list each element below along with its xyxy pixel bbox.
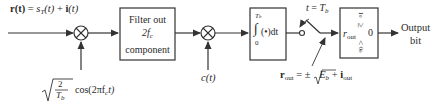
carrier-tail: t) [108,84,114,95]
carrier-fraction-num: 2 [58,80,63,89]
rout-eq: = ± [296,69,310,80]
carrier-cos-text: cos(2πf [75,84,105,95]
input-s-arg: (t) [44,3,54,14]
integrator-upper-limit: Tb [255,13,261,20]
input-r: r(t) [10,3,25,14]
integrator-integrand: (•)dt [261,28,278,38]
diagram-canvas [0,0,436,108]
filter-line2: 2fc [120,26,175,43]
filter-2f: 2f [142,27,150,38]
int-upper-sub: b [259,14,262,19]
filter-line3: component [120,43,175,56]
carrier-den-sub: b [61,94,65,102]
carrier-fraction-den: Tb [56,91,65,102]
decision-top-symbol: 10 [357,12,364,18]
sample-time-label: t = Tb [306,3,328,15]
sample-t: t [306,2,309,13]
integral-sign: ∫ [254,22,258,36]
carrier-cos-label: cos(2πfct) [75,85,114,97]
rout-E-sub: b [326,74,330,82]
rout-plus: + [332,69,338,80]
decision-r-sub: out [347,33,356,41]
mixer2-icon [201,26,215,40]
input-plus: + [57,3,63,14]
decision-bottom-symbol: 00 [357,47,364,53]
rout-i-sub: out [343,74,352,82]
output-label: Output bit [401,21,430,47]
decision-bottom-sub: 0 [358,50,363,53]
output-line2: bit [401,34,430,47]
output-line1: Output [401,21,430,34]
spreading-code-label: c(t) [201,73,216,84]
decision-ge: ≥ [356,23,365,28]
rout-pointer-arrow [312,38,325,66]
filter-fc-sub: c [150,32,153,40]
mixer1-icon [74,26,88,40]
switch-action-arrow-icon [300,19,309,27]
rout-equation: rout = ± Eb + iout [280,70,352,82]
filter-label: Filter out 2fc component [120,13,175,56]
decision-var: rout [343,29,356,41]
input-label: r(t) = sT(t) + i(t) [10,4,78,16]
sample-eq: = [311,2,317,13]
switch-contact-icon [300,31,305,36]
filter-line1: Filter out [120,13,175,26]
input-eq: = [28,3,34,14]
switch-arm-icon [306,20,320,33]
input-i-arg: (t) [68,3,78,14]
decision-threshold: 0 [368,28,373,38]
decision-le: < [356,40,365,45]
integrator-lower-limit: 0 [255,40,259,47]
decision-top-sub: 0 [358,15,363,18]
sample-sub: b [325,7,329,15]
rout-sub: out [285,74,294,82]
